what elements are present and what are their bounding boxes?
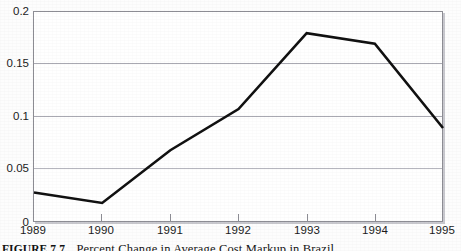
y-axis-tick-label: 0.05 [0,162,29,174]
x-axis-tick-label: 1992 [216,224,260,237]
x-axis-tick-label: 1991 [148,224,192,237]
x-axis-tick-label: 1994 [353,224,397,237]
figure-container: 0.2 0.15 0.1 0.05 0 1989 1990 [0,0,461,251]
plot-area [33,11,443,222]
x-axis-tick-label: 1993 [285,224,329,237]
data-polyline [34,33,443,203]
y-axis-tick-label: 0.15 [0,57,29,69]
line-chart: 0.2 0.15 0.1 0.05 0 1989 1990 [0,0,461,233]
figure-caption-text: Percent Change in Average Cost Markup in… [76,242,334,251]
x-axis-tick-label: 1990 [79,224,123,237]
figure-caption: FIGURE 7.7 Percent Change in Average Cos… [2,239,461,251]
figure-caption-id: FIGURE 7.7 [2,243,65,251]
x-axis-tick-label: 1995 [420,224,461,237]
y-axis-tick-label: 0.1 [0,110,29,122]
y-axis-tick-label: 0.2 [0,5,29,17]
x-axis-tick-labels: 1989 1990 1991 1992 1993 1994 1995 [0,224,461,240]
x-axis-tick-label: 1989 [11,224,55,237]
series-line-average-cost-markup [34,12,444,223]
